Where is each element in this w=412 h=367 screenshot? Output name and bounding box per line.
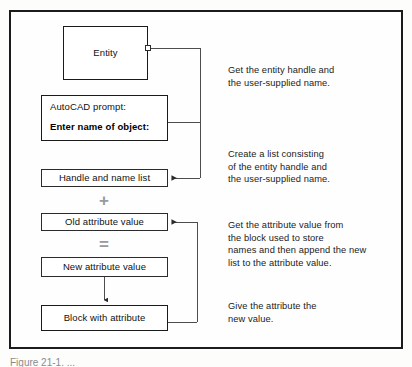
node-entity-label: Entity bbox=[93, 48, 117, 59]
annotation-create-list: Create a list consisting of the entity h… bbox=[228, 148, 393, 186]
annotation-get-attribute-value: Get the attribute value from the block u… bbox=[228, 219, 400, 269]
node-block-with-attribute[interactable]: Block with attribute bbox=[41, 305, 168, 331]
node-new-attribute-value-label: New attribute value bbox=[63, 262, 146, 273]
figure-container: Entity AutoCAD prompt: Enter name of obj… bbox=[0, 0, 412, 367]
node-block-with-attribute-label: Block with attribute bbox=[64, 313, 146, 324]
node-handle-and-name-list-label: Handle and name list bbox=[59, 173, 150, 184]
figure-caption: Figure 21-1. ... bbox=[10, 356, 310, 367]
plus-operator-icon: + bbox=[94, 192, 114, 209]
node-new-attribute-value[interactable]: New attribute value bbox=[41, 257, 168, 277]
entity-grip-handle-icon[interactable] bbox=[145, 45, 151, 51]
equals-operator-icon: = bbox=[94, 236, 114, 253]
prompt-heading: AutoCAD prompt: bbox=[50, 102, 159, 113]
prompt-command-text: Enter name of object: bbox=[50, 122, 159, 133]
node-handle-and-name-list[interactable]: Handle and name list bbox=[41, 169, 168, 187]
node-autocad-prompt[interactable]: AutoCAD prompt: Enter name of object: bbox=[41, 95, 168, 141]
node-entity[interactable]: Entity bbox=[63, 26, 148, 80]
node-old-attribute-value-label: Old attribute value bbox=[65, 217, 144, 228]
node-old-attribute-value[interactable]: Old attribute value bbox=[41, 213, 168, 231]
annotation-get-entity-handle: Get the entity handle and the user-suppl… bbox=[228, 64, 393, 89]
annotation-give-attribute-value: Give the attribute the new value. bbox=[228, 300, 393, 325]
